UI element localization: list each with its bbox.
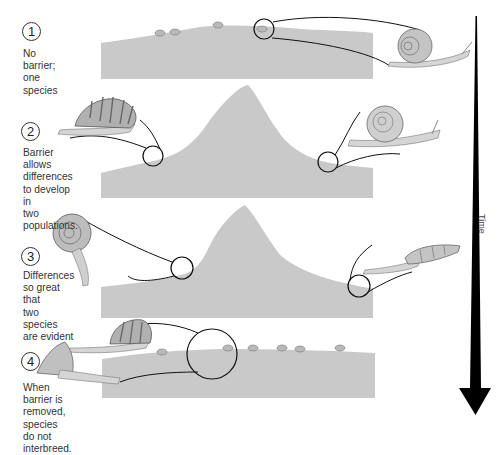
step-caption: Barrier allows differences to develop in… [23,147,78,232]
panel-4-land [37,320,375,398]
panel-3-land [53,205,460,318]
snail-conical-right [363,245,460,274]
step-number-badge: 2 [21,122,40,141]
snail-large-1 [388,29,472,67]
panel-1-land [101,17,472,79]
step-number-badge: 1 [22,22,41,41]
snail-striped-4 [68,320,151,353]
time-axis-label: Time [477,214,487,234]
snail-round-right [348,106,440,147]
panel-2-land [58,85,440,198]
step-caption: Differences so great that two species ar… [23,270,74,343]
snail-striped-left [58,97,136,135]
step-number-badge: 4 [21,352,40,371]
step-caption: No barrier; one species [23,48,58,97]
step-caption: When barrier is removed, species do not … [23,382,72,455]
step-number-badge: 3 [21,247,40,266]
